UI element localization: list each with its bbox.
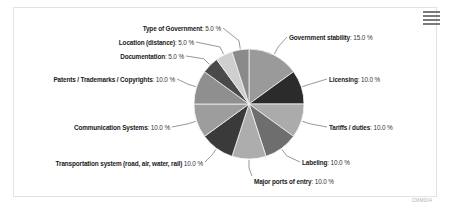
slice-label-value: : 5.0 % xyxy=(165,53,184,60)
slice-label-value: : 5.0 % xyxy=(175,39,194,46)
pie-slices xyxy=(194,49,304,159)
slice-label-name: Location (distance) xyxy=(119,39,175,46)
slice-label-value: : 15.0 % xyxy=(350,34,372,41)
leader-line xyxy=(302,79,327,87)
menu-line xyxy=(423,19,440,21)
slice-label-labeling: Labeling: 10.0 % xyxy=(302,159,350,168)
slice-label-value: : 10.0 % xyxy=(311,178,333,185)
leader-line xyxy=(205,149,216,162)
leader-line xyxy=(302,121,327,127)
leader-line xyxy=(186,56,209,64)
slice-label-name: Transportation system (road, air, water,… xyxy=(56,160,183,167)
slice-label-communication-systems: Communication Systems: 10.0 % xyxy=(0,124,170,133)
leader-line xyxy=(249,160,252,176)
chart-credit: CMM004 xyxy=(412,198,432,203)
slice-label-patents-trademarks-copyrights: Patents / Trademarks / Copyrights: 10.0 … xyxy=(0,76,175,85)
hamburger-menu-icon[interactable] xyxy=(423,11,440,25)
slice-label-value: : 10.0 % xyxy=(370,124,392,131)
menu-line xyxy=(423,11,440,13)
slice-label-name: Government stability xyxy=(289,34,350,41)
slice-label-licensing: Licensing: 10.0 % xyxy=(329,76,380,85)
slice-label-tariffs-duties: Tariffs / duties: 10.0 % xyxy=(329,124,393,133)
slice-label-value: : 5.0 % xyxy=(202,25,221,32)
leader-line xyxy=(274,37,287,54)
slice-label-name: Documentation xyxy=(120,53,165,60)
slice-label-name: Type of Government xyxy=(143,25,202,32)
slice-label-name: Tariffs / duties xyxy=(329,124,370,131)
leader-line xyxy=(177,79,196,87)
leader-line xyxy=(223,28,240,49)
slice-label-documentation: Documentation: 5.0 % xyxy=(0,53,184,62)
slice-label-name: Labeling xyxy=(302,159,327,166)
slice-label-value: : 10.0 % xyxy=(148,124,170,131)
leader-line xyxy=(172,121,196,127)
menu-line xyxy=(423,23,440,25)
slice-label-major-ports-of-entry: Major ports of entry: 10.0 % xyxy=(254,178,334,187)
leader-line xyxy=(282,149,300,162)
slice-label-value: : 10.0 % xyxy=(153,76,175,83)
slice-label-location-distance: Location (distance): 5.0 % xyxy=(0,39,194,48)
slice-label-value: : 10.0 % xyxy=(358,76,380,83)
leader-line xyxy=(196,42,224,54)
slice-label-transportation-system: Transportation system (road, air, water,… xyxy=(43,160,203,169)
slice-label-name: Licensing xyxy=(329,76,358,83)
slice-label-government-stability: Government stability: 15.0 % xyxy=(289,34,372,43)
slice-label-type-of-government: Type of Government: 5.0 % xyxy=(0,25,221,34)
slice-label-name: Communication Systems xyxy=(74,124,148,131)
slice-label-value: : 10.0 % xyxy=(327,159,349,166)
slice-label-name: Major ports of entry xyxy=(254,178,311,185)
slice-label-name: Patents / Trademarks / Copyrights xyxy=(53,76,152,83)
menu-line xyxy=(423,15,440,17)
slice-label-value: 10.0 % xyxy=(182,160,203,167)
